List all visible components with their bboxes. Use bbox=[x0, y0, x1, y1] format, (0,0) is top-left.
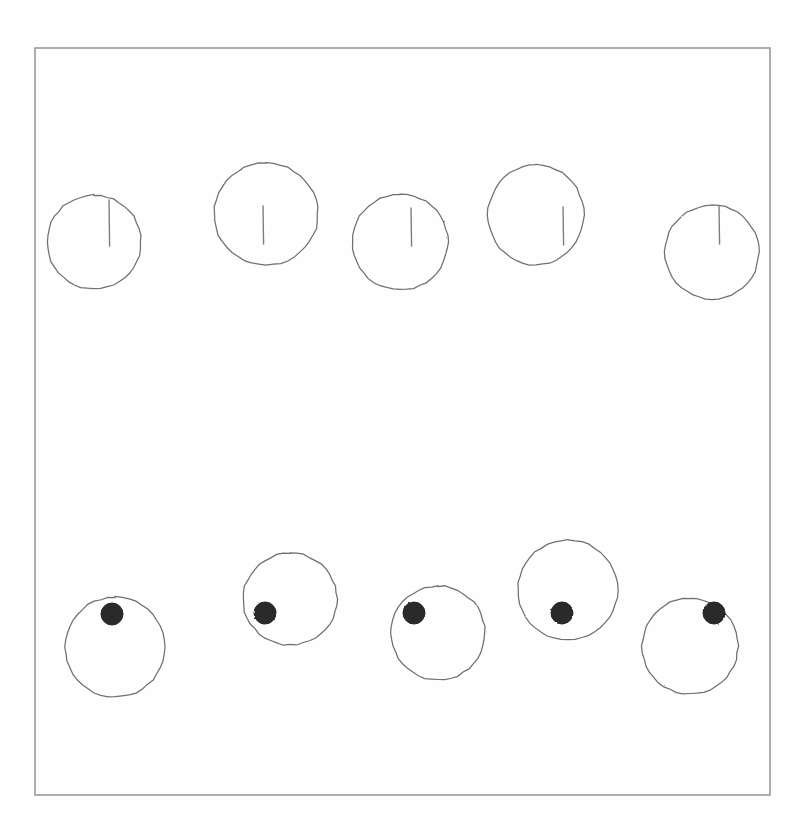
dot-marker-2 bbox=[254, 602, 276, 624]
dot-marker-1 bbox=[101, 603, 123, 625]
figure-canvas bbox=[0, 0, 808, 832]
page-background bbox=[0, 0, 808, 832]
tick-mark-1 bbox=[109, 200, 110, 246]
dot-marker-5 bbox=[703, 602, 725, 624]
tick-mark-3 bbox=[411, 208, 412, 246]
tick-mark-5 bbox=[719, 206, 720, 244]
tick-mark-2 bbox=[263, 206, 264, 244]
dot-marker-3 bbox=[403, 602, 425, 624]
figure-root bbox=[0, 0, 808, 832]
dot-marker-4 bbox=[551, 602, 573, 624]
tick-mark-4 bbox=[563, 207, 564, 245]
